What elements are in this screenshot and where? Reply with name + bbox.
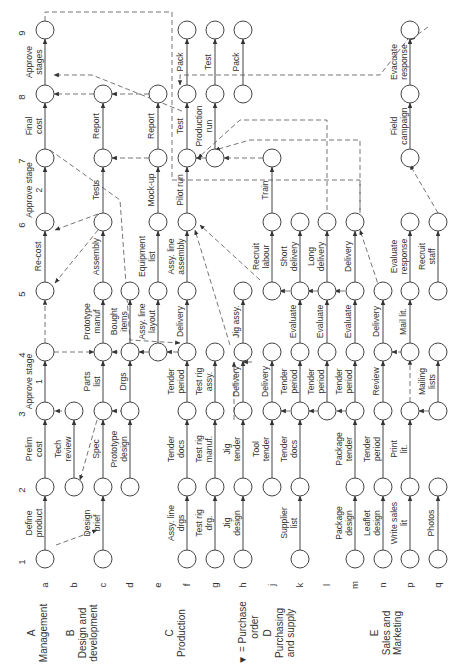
activity-label: Mock-up: [146, 173, 156, 206]
event-node: [401, 402, 419, 420]
event-node: [318, 213, 336, 231]
activity-label: Approve stage1: [24, 354, 44, 410]
activity-label: Delivery: [260, 365, 270, 397]
group-labels: AManagementBDesign anddevelopmentCProduc…: [26, 604, 403, 663]
activity-label: Printlit.: [389, 440, 409, 458]
activity-label: Tenderdocs: [166, 436, 186, 462]
activity-label: Tooltender: [251, 437, 271, 462]
event-node: [94, 550, 112, 568]
event-node: [401, 282, 419, 300]
event-node: [318, 343, 336, 361]
event-node: [263, 402, 281, 420]
event-node: [178, 550, 196, 568]
event-node: [234, 550, 252, 568]
event-node: [94, 85, 112, 103]
activity-label: Tests: [91, 180, 101, 200]
event-node: [206, 21, 224, 39]
activity-label: Delivery: [371, 305, 381, 337]
event-node: [206, 85, 224, 103]
activity-label: Equipmentlist: [137, 235, 157, 277]
event-node: [121, 282, 139, 300]
activity-label: Pack: [175, 52, 185, 72]
activity-label: Test: [175, 118, 185, 134]
event-node: [401, 343, 419, 361]
event-node: [374, 478, 392, 496]
activity-label: Assembly: [91, 237, 101, 275]
event-node: [149, 149, 167, 167]
event-node: [94, 402, 112, 420]
event-node: [263, 149, 281, 167]
event-node: [346, 402, 364, 420]
event-node: [36, 402, 54, 420]
event-node: [178, 149, 196, 167]
event-node: [291, 213, 309, 231]
activity-label: Review: [371, 367, 381, 396]
event-node: [149, 343, 167, 361]
row-letter: l: [321, 584, 332, 586]
activity-label: Mailinglists: [417, 368, 437, 395]
activity-label: Photos: [426, 510, 436, 537]
event-node: [94, 282, 112, 300]
event-node: [65, 402, 83, 420]
group-label: CProduction: [164, 609, 187, 657]
stage-number: 9: [16, 30, 27, 35]
event-node: [263, 343, 281, 361]
activity-label: Shortdelivery: [279, 241, 299, 271]
activity-label: Train: [260, 180, 270, 199]
stage-number: 4: [16, 352, 27, 357]
activity-label: Jig assy.: [231, 305, 241, 338]
event-node: [206, 478, 224, 496]
activity-label: Delivery: [175, 305, 185, 337]
event-node: [429, 213, 447, 231]
event-node: [178, 21, 196, 39]
event-node: [149, 213, 167, 231]
event-node: [234, 478, 252, 496]
event-node: [149, 282, 167, 300]
activity-label: Leafletdesign: [362, 509, 382, 535]
row-letter: d: [124, 582, 135, 587]
event-node: [318, 282, 336, 300]
event-node: [36, 213, 54, 231]
stage-number: 6: [16, 222, 27, 227]
activity-label: Tenderperiod: [334, 368, 354, 394]
activity-label: Prototypemanuf: [82, 303, 102, 340]
event-node: [121, 343, 139, 361]
stage-number: 7: [16, 158, 27, 163]
network-diagram: DefineproductPrelimcostApprove stage1Re-…: [0, 0, 457, 671]
stage-number: 8: [16, 94, 27, 99]
activity-label: Tenderperiod: [306, 368, 326, 394]
event-node: [401, 550, 419, 568]
row-letter: f: [181, 583, 192, 586]
activity-label: Report: [146, 112, 156, 138]
activity-label: Recruitlabour: [251, 242, 271, 270]
activity-label: Recruitstaff: [417, 242, 437, 270]
event-node: [263, 213, 281, 231]
row-letter: h: [237, 582, 248, 587]
event-node: [401, 21, 419, 39]
event-node: [401, 213, 419, 231]
event-node: [36, 21, 54, 39]
event-node: [291, 478, 309, 496]
event-node: [429, 550, 447, 568]
event-node: [346, 213, 364, 231]
row-letter: e: [152, 582, 163, 587]
activity-label: Prototypedesign: [109, 430, 129, 467]
activity-label: Test: [203, 54, 213, 70]
event-node: [234, 21, 252, 39]
row-letter: j: [266, 584, 277, 587]
event-node: [178, 343, 196, 361]
stage-number: 5: [16, 291, 27, 296]
stage-number: 1: [16, 559, 27, 564]
dependency-link: [215, 140, 360, 210]
event-node: [94, 213, 112, 231]
activity-label: Jigdesign: [222, 510, 242, 536]
row-letter: q: [432, 582, 443, 587]
event-node: [178, 402, 196, 420]
activity-label: Delivery: [343, 240, 353, 272]
activity-label: Jigtender: [222, 437, 242, 462]
activity-label: Write saleslit: [389, 502, 409, 544]
activity-label: Packagedesign: [334, 506, 354, 540]
event-nodes: [36, 21, 447, 568]
event-node: [318, 402, 336, 420]
activity-label: Assy. linelayout: [137, 303, 157, 339]
